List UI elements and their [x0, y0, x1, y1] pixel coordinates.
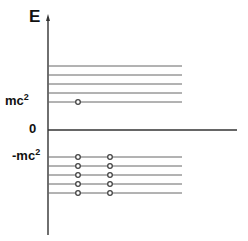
energy-level-diagram	[0, 0, 248, 241]
positive-energy-levels	[48, 66, 182, 102]
axis-arrow-icon	[46, 14, 50, 21]
negative-energy-levels	[48, 157, 182, 193]
particles	[76, 100, 113, 196]
particle-positive	[76, 100, 81, 105]
